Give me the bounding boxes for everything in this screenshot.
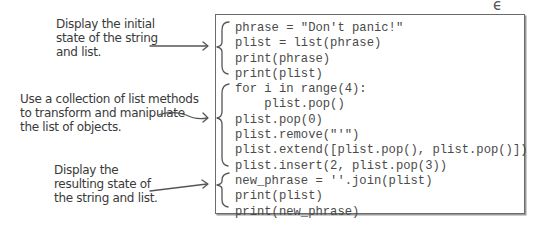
code-listing: phrase = "Don't panic!"plist = list(phra… xyxy=(235,21,528,220)
annotation-line: Display the xyxy=(54,163,158,177)
code-line: new_phrase = ''.join(plist) xyxy=(235,174,528,189)
code-line: phrase = "Don't panic!" xyxy=(235,21,528,36)
arrow-head-icon xyxy=(203,113,208,122)
code-line: for i in range(4): xyxy=(235,82,528,97)
code-line: print(plist) xyxy=(235,67,528,82)
annotation-transform: Use a collection of list methods to tran… xyxy=(20,92,199,134)
code-line: print(phrase) xyxy=(235,52,528,67)
arrow-head-icon xyxy=(202,180,208,188)
arrow-icon xyxy=(150,184,207,191)
code-line: print(plist) xyxy=(235,189,528,204)
code-line: plist.extend([plist.pop(), plist.pop()]) xyxy=(235,143,528,158)
code-listing-box: phrase = "Don't panic!"plist = list(phra… xyxy=(215,14,525,214)
annotation-line: Use a collection of list methods xyxy=(20,92,199,106)
code-line: plist.remove("'") xyxy=(235,128,528,143)
annotation-initial-state: Display the initial state of the string … xyxy=(56,17,158,59)
annotation-line: resulting state of xyxy=(54,177,158,191)
code-line: plist.pop(0) xyxy=(235,113,528,128)
corner-mark-icon: ϵ xyxy=(493,0,502,14)
annotation-line: state of the string xyxy=(56,31,158,45)
annotation-line: Display the initial xyxy=(56,17,158,31)
annotation-line: to transform and manipulate xyxy=(20,106,199,120)
annotation-line: the list of objects. xyxy=(20,120,199,134)
annotation-line: the string and list. xyxy=(54,191,158,205)
annotation-line: and list. xyxy=(56,45,158,59)
code-line: print(new_phrase) xyxy=(235,205,528,220)
code-line: plist.pop() xyxy=(235,97,528,112)
annotation-resulting-state: Display the resulting state of the strin… xyxy=(54,163,158,205)
code-line: plist.insert(2, plist.pop(3)) xyxy=(235,159,528,174)
code-line: plist = list(phrase) xyxy=(235,36,528,51)
arrow-head-icon xyxy=(203,42,208,50)
